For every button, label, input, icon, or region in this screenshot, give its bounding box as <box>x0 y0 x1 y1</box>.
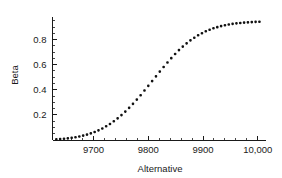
y-tick-labels: 0.20.40.60.8 <box>33 34 46 120</box>
chart-figure: 97009800990010,000 0.20.40.60.8 Alternat… <box>0 0 282 178</box>
data-point <box>197 34 200 37</box>
scatter-plot-canvas: 97009800990010,000 0.20.40.60.8 Alternat… <box>0 0 282 178</box>
data-point <box>59 138 62 141</box>
data-point <box>139 94 142 97</box>
data-point <box>82 134 85 137</box>
data-point <box>178 49 181 52</box>
data-point <box>147 85 150 88</box>
data-point <box>189 39 192 42</box>
data-point <box>166 61 169 64</box>
data-point <box>235 22 238 25</box>
data-point <box>239 22 242 25</box>
y-tick-label: 0.8 <box>33 34 46 45</box>
data-point <box>78 135 81 138</box>
data-point <box>254 21 257 24</box>
data-point <box>128 107 131 110</box>
data-point <box>224 24 227 27</box>
data-point <box>162 66 165 69</box>
data-point <box>143 89 146 92</box>
data-point <box>136 98 139 101</box>
data-point <box>105 125 108 128</box>
data-point <box>109 123 112 126</box>
data-point <box>120 114 123 117</box>
data-point <box>227 23 230 26</box>
data-point <box>250 21 253 24</box>
x-axis <box>53 136 267 140</box>
data-point <box>243 21 246 24</box>
y-tick-label: 0.6 <box>33 59 46 70</box>
data-point <box>63 137 66 140</box>
data-point <box>132 103 135 106</box>
data-point <box>124 110 127 113</box>
data-point <box>74 136 77 139</box>
data-point <box>151 80 154 83</box>
y-axis-title: Beta <box>9 65 20 85</box>
x-tick-label: 9700 <box>83 144 104 155</box>
data-point <box>97 129 100 132</box>
y-axis <box>53 17 57 140</box>
data-point <box>93 131 96 134</box>
data-point <box>231 23 234 26</box>
data-points <box>55 20 261 140</box>
data-point <box>90 132 93 135</box>
x-tick-label: 10,000 <box>243 144 272 155</box>
data-point <box>55 138 58 141</box>
data-point <box>204 30 207 33</box>
data-point <box>216 26 219 29</box>
data-point <box>86 133 89 136</box>
data-point <box>212 27 215 30</box>
data-point <box>174 53 177 56</box>
x-tick-labels: 97009800990010,000 <box>83 144 272 155</box>
data-point <box>181 45 184 48</box>
data-point <box>220 25 223 28</box>
data-point <box>258 20 261 23</box>
data-point <box>113 120 116 123</box>
y-tick-label: 0.4 <box>33 84 46 95</box>
x-tick-label: 9900 <box>192 144 213 155</box>
data-point <box>208 28 211 31</box>
data-point <box>185 42 188 45</box>
data-point <box>67 137 70 140</box>
data-point <box>247 21 250 24</box>
data-point <box>159 70 162 73</box>
data-point <box>201 32 204 35</box>
data-point <box>116 117 119 120</box>
data-point <box>170 57 173 60</box>
data-point <box>70 137 73 140</box>
data-point <box>101 127 104 130</box>
data-point <box>193 36 196 39</box>
data-point <box>155 75 158 78</box>
x-tick-label: 9800 <box>138 144 159 155</box>
y-tick-label: 0.2 <box>33 109 46 120</box>
x-axis-title: Alternative <box>138 163 183 174</box>
